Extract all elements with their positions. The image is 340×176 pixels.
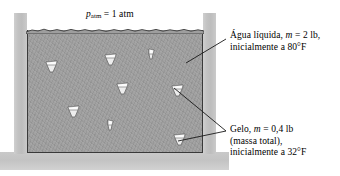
thermodynamics-figure: patm = 1 atm Água líquida, m = 2 lb, ini… — [0, 0, 340, 176]
mass-symbol: m — [254, 124, 261, 134]
water-leader-line — [186, 39, 226, 63]
annotation-line: Água líquida, m = 2 lb, — [230, 30, 320, 42]
pressure-value: = 1 atm — [101, 9, 133, 19]
annotation-line: inicialmente a 32°F — [230, 147, 306, 159]
annotation-line: Gelo, m = 0,4 lb — [230, 124, 306, 136]
pressure-subscript: atm — [91, 12, 102, 20]
atmospheric-pressure-label: patm = 1 atm — [86, 9, 134, 23]
ice-leader-line-upper — [174, 88, 226, 131]
annotation-line: (massa total), — [230, 136, 306, 148]
liquid-water-annotation: Água líquida, m = 2 lb, inicialmente a 8… — [230, 30, 320, 53]
ice-annotation: Gelo, m = 0,4 lb (massa total), inicialm… — [230, 124, 306, 159]
ice-leader-line-lower — [178, 131, 226, 141]
annotation-line: inicialmente a 80°F — [230, 42, 320, 54]
